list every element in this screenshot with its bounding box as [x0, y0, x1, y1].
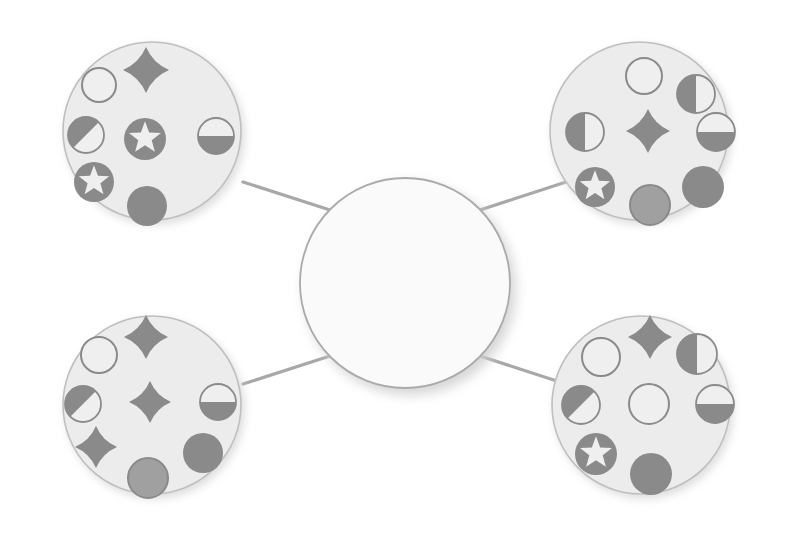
center-hub[interactable] [300, 178, 510, 388]
circle-half-horizontal-icon[interactable] [696, 385, 734, 423]
circle-shape [127, 186, 167, 226]
circle-solid-icon[interactable] [183, 433, 223, 473]
circle-half-vertical-icon[interactable] [677, 334, 717, 374]
circle-half-vertical-icon[interactable] [677, 75, 715, 113]
cluster-top-right[interactable] [550, 42, 735, 225]
circle-shape [582, 338, 620, 376]
circle-half-horizontal-icon[interactable] [200, 384, 236, 420]
cluster-bottom-left[interactable] [54, 315, 241, 498]
circle-shape [82, 68, 116, 102]
circle-shape [629, 384, 669, 424]
circle-half-horizontal-icon[interactable] [198, 118, 234, 154]
cluster-bottom-right[interactable] [551, 315, 734, 495]
circle-solid-icon[interactable] [630, 453, 672, 495]
star-in-circle-icon[interactable] [74, 162, 114, 202]
circle-solid-icon[interactable] [127, 186, 167, 226]
circle-solid-outlined-icon[interactable] [630, 185, 670, 225]
circle-shape [626, 58, 662, 94]
circle-half-vertical-icon[interactable] [566, 113, 604, 151]
connector-hub-to-bottom-left [243, 356, 330, 384]
connector-hub-to-top-right [480, 182, 566, 210]
circle-shape [183, 433, 223, 473]
circle-shape [682, 166, 724, 208]
connector-hub-to-bottom-right [480, 356, 566, 384]
circle-outline-icon[interactable] [82, 68, 116, 102]
circle-shape [81, 337, 117, 373]
circle-shape [630, 453, 672, 495]
circle-outline-icon[interactable] [629, 384, 669, 424]
circle-outline-icon[interactable] [626, 58, 662, 94]
diagram-canvas [0, 0, 791, 536]
star-in-circle-icon[interactable] [575, 433, 617, 475]
circle-outline-icon[interactable] [81, 337, 117, 373]
connector-hub-to-top-left [243, 182, 330, 210]
hub-background [300, 178, 510, 388]
cluster-diagram [0, 0, 791, 536]
circle-outline-icon[interactable] [582, 338, 620, 376]
star-in-circle-icon[interactable] [124, 118, 166, 160]
circle-shape [630, 185, 670, 225]
circle-solid-icon[interactable] [682, 166, 724, 208]
circle-solid-outlined-icon[interactable] [128, 458, 168, 498]
circle-shape [128, 458, 168, 498]
circle-half-horizontal-icon[interactable] [697, 113, 735, 151]
star-in-circle-icon[interactable] [575, 167, 615, 207]
cluster-top-left[interactable] [57, 42, 241, 226]
